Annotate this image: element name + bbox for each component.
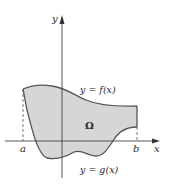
y-axis-arrow-icon [60, 15, 65, 24]
region-label: Ω [85, 120, 94, 131]
curve-f-label: y = f(x) [79, 84, 116, 95]
region-omega [23, 85, 137, 158]
region-diagram: y x a b y = f(x) y = g(x) Ω [0, 0, 170, 187]
point-a-label: a [20, 143, 26, 154]
point-b-label: b [133, 143, 139, 154]
curve-g-label: y = g(x) [79, 164, 119, 175]
y-axis-label: y [51, 13, 58, 24]
x-axis-label: x [154, 143, 160, 154]
